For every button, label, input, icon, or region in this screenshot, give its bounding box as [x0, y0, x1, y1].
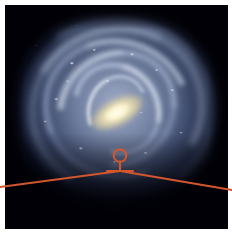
- figure-root: [0, 0, 232, 234]
- galaxy-illustration: [5, 5, 228, 229]
- sky-panel: [5, 5, 228, 229]
